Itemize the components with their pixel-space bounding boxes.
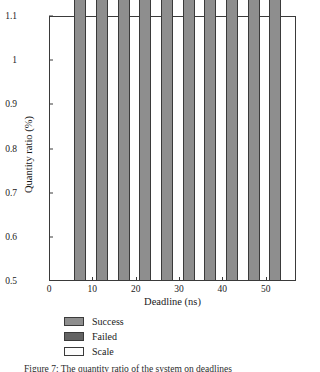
y-tick-mark bbox=[49, 236, 53, 237]
y-tick-label: 1 bbox=[0, 55, 17, 65]
x-tick-mark bbox=[222, 277, 223, 281]
legend-label-success: Success bbox=[92, 316, 124, 327]
legend-item-failed: Failed bbox=[64, 329, 124, 343]
bar-deadline-20-b bbox=[139, 59, 151, 280]
bar-deadline-30-a bbox=[161, 59, 173, 280]
bar-segment-success bbox=[269, 0, 281, 280]
x-tick-label: 10 bbox=[88, 284, 98, 294]
bar-segment-success bbox=[96, 0, 108, 280]
y-tick-mark bbox=[49, 104, 53, 105]
legend-swatch-failed-icon bbox=[64, 332, 84, 341]
x-tick-label: 20 bbox=[131, 284, 141, 294]
bar-deadline-30-b bbox=[183, 59, 195, 280]
legend-label-scale: Scale bbox=[92, 346, 114, 357]
legend-label-failed: Failed bbox=[92, 331, 117, 342]
legend-item-scale: Scale bbox=[64, 344, 124, 358]
x-tick-label: 30 bbox=[174, 284, 184, 294]
y-tick-label: 0.6 bbox=[0, 232, 17, 242]
bar-deadline-40-b bbox=[226, 59, 238, 280]
x-tick-mark bbox=[179, 277, 180, 281]
legend-swatch-scale-icon bbox=[64, 347, 84, 356]
y-tick-label: 0.8 bbox=[0, 144, 17, 154]
legend-swatch-success-icon bbox=[64, 317, 84, 326]
bar-segment-success bbox=[74, 0, 86, 280]
legend: Success Failed Scale bbox=[64, 314, 124, 359]
y-tick-label: 0.9 bbox=[0, 99, 17, 109]
bar-deadline-20-a bbox=[118, 59, 130, 280]
bar-segment-success bbox=[248, 0, 260, 280]
y-axis-label: Quantity ratio (%) bbox=[23, 70, 34, 240]
bar-deadline-40-a bbox=[204, 59, 216, 280]
bar-deadline-10-b bbox=[96, 59, 108, 280]
x-tick-label: 50 bbox=[261, 284, 271, 294]
plot-area bbox=[49, 16, 296, 281]
x-axis-label: Deadline (ns) bbox=[49, 296, 296, 307]
x-tick-mark bbox=[266, 277, 267, 281]
figure-caption: Figure 7: The quantity ratio of the syst… bbox=[24, 364, 314, 372]
legend-item-success: Success bbox=[64, 314, 124, 328]
bar-deadline-50-a bbox=[248, 59, 260, 280]
bar-segment-success bbox=[161, 0, 173, 280]
y-tick-mark bbox=[49, 148, 53, 149]
y-tick-mark bbox=[49, 192, 53, 193]
bar-segment-success bbox=[226, 0, 238, 280]
y-tick-label: 1.1 bbox=[0, 11, 17, 21]
bars-layer bbox=[50, 17, 295, 280]
x-tick-mark bbox=[92, 277, 93, 281]
x-tick-mark bbox=[136, 277, 137, 281]
y-tick-mark bbox=[49, 16, 53, 17]
bar-segment-success bbox=[183, 0, 195, 280]
bar-deadline-50-b bbox=[269, 59, 281, 280]
x-tick-label: 40 bbox=[218, 284, 228, 294]
x-tick-label: 0 bbox=[47, 284, 52, 294]
bar-segment-success bbox=[139, 0, 151, 280]
y-tick-mark bbox=[49, 60, 53, 61]
bar-deadline-10-a bbox=[74, 59, 86, 280]
y-tick-label: 0.5 bbox=[0, 276, 17, 286]
bar-segment-success bbox=[118, 0, 130, 280]
y-tick-label: 0.7 bbox=[0, 188, 17, 198]
bar-segment-success bbox=[204, 0, 216, 280]
figure: Quantity ratio (%) 0.50.60.70.80.911.1 0… bbox=[0, 0, 320, 372]
